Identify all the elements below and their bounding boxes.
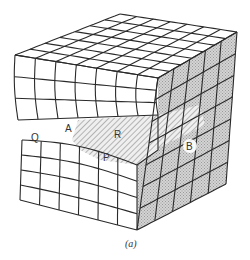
label-p: P — [103, 152, 110, 163]
label-b: B — [186, 141, 193, 152]
label-q: Q — [31, 132, 39, 143]
label-a: A — [65, 123, 72, 134]
label-r: R — [114, 129, 121, 140]
figure-caption: (a) — [125, 238, 137, 250]
deformed-crystal-diagram: Q A R P B (a) — [0, 0, 250, 260]
figure: Q A R P B (a) — [0, 0, 250, 260]
